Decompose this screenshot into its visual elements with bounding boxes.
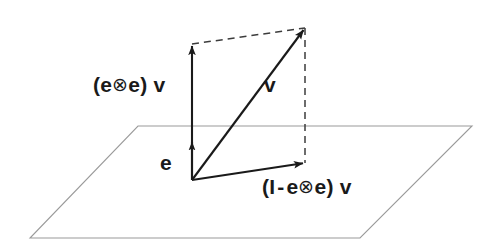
figure-canvas [0,0,487,244]
label-projection-perpendicular-e-first: e [286,175,298,198]
label-projection-perpendicular-e-second: e [314,175,326,198]
label-projection-parallel-close-paren: ) [140,73,147,96]
vector-arrow-v [192,30,304,180]
label-minus-sign: - [277,175,284,198]
label-projection-perpendicular: (I - e⊗e) v [262,176,352,197]
ground-plane [30,126,472,238]
dashed-parallelogram-top-edge [192,28,305,44]
label-identity-matrix: I [269,175,275,198]
label-unit-vector-e: e [160,152,172,173]
tensor-product-icon: ⊗ [112,74,128,95]
label-projection-parallel-v: v [153,73,165,96]
vector-decomposition-figure: (e⊗e) v v e (I - e⊗e) v [0,0,487,244]
label-projection-perpendicular-v: v [340,175,352,198]
label-projection-parallel-e-second: e [128,73,140,96]
tensor-product-icon: ⊗ [298,176,314,197]
label-projection-parallel: (e⊗e) v [93,74,165,95]
label-projection-parallel-e-first: e [100,73,112,96]
label-vector-v: v [264,74,276,95]
label-projection-perpendicular-close-paren: ) [326,175,333,198]
